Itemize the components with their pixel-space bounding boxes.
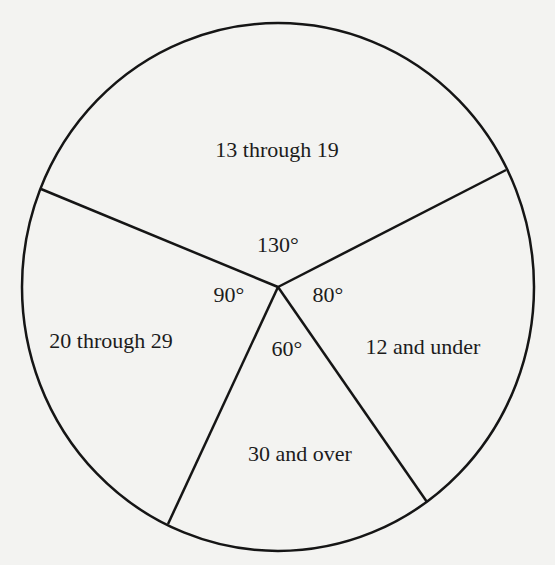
angle-label-60: 60° [272, 338, 303, 360]
angle-label-80: 80° [313, 284, 344, 306]
angle-label-130: 130° [257, 234, 299, 256]
angle-label-90: 90° [214, 284, 245, 306]
divider-bottom-left [168, 287, 278, 524]
pie-chart [0, 0, 555, 565]
slice-label-13-through-19: 13 through 19 [215, 139, 338, 161]
divider-left [41, 189, 278, 287]
divider-right [278, 170, 506, 287]
slice-label-20-through-29: 20 through 29 [49, 330, 172, 352]
slice-label-12-and-under: 12 and under [366, 336, 481, 358]
divider-bottom-right [278, 287, 427, 502]
slice-label-30-and-over: 30 and over [248, 443, 352, 465]
